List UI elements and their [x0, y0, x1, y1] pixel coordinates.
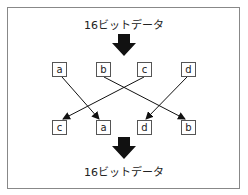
- big-down-arrow-bottom: [112, 137, 136, 159]
- output-box-c: c: [52, 120, 67, 135]
- line-b: [104, 77, 185, 119]
- line-d: [146, 77, 187, 119]
- output-box-d: d: [137, 120, 152, 135]
- input-box-d: d: [181, 62, 196, 77]
- big-down-arrow-top: [112, 34, 136, 56]
- input-box-c: c: [137, 62, 152, 77]
- input-box-b: b: [96, 62, 111, 77]
- line-c: [63, 77, 144, 119]
- output-box-b: b: [181, 120, 196, 135]
- input-box-a: a: [52, 62, 67, 77]
- line-a: [62, 77, 99, 119]
- output-box-a: a: [96, 120, 111, 135]
- diagram-arrows: [0, 0, 248, 195]
